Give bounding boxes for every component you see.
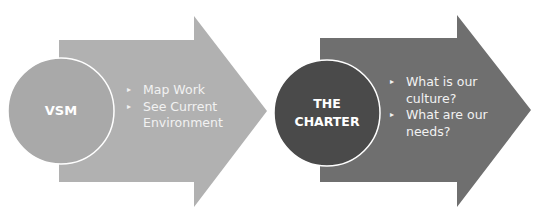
- triangle-right-icon: ▸: [127, 82, 131, 99]
- step-1-bullet-text: See Current Environment: [143, 99, 223, 131]
- step-2-bullet-text: What are our needs?: [406, 107, 488, 139]
- step-2-title-line-1: THE: [285, 95, 369, 113]
- step-2-bullet-text: What is our culture?: [406, 74, 477, 106]
- step-2-bullet-list: ▸ What is our culture? ▸ What are our ne…: [388, 74, 488, 140]
- step-1-title: VSM: [24, 103, 98, 118]
- triangle-right-icon: ▸: [390, 107, 394, 124]
- step-2-bullet-item: ▸ What is our culture?: [388, 74, 488, 107]
- step-2-title-line-2: CHARTER: [285, 113, 369, 131]
- step-1-bullet-list: ▸ Map Work ▸ See Current Environment: [125, 82, 235, 132]
- step-1-bullet-text: Map Work: [143, 82, 205, 97]
- triangle-right-icon: ▸: [390, 74, 394, 91]
- triangle-right-icon: ▸: [127, 99, 131, 116]
- step-2-title: THE CHARTER: [285, 95, 369, 131]
- step-2-bullet-item: ▸ What are our needs?: [388, 107, 488, 140]
- step-1-bullet-item: ▸ See Current Environment: [125, 99, 235, 132]
- step-1-bullet-item: ▸ Map Work: [125, 82, 235, 99]
